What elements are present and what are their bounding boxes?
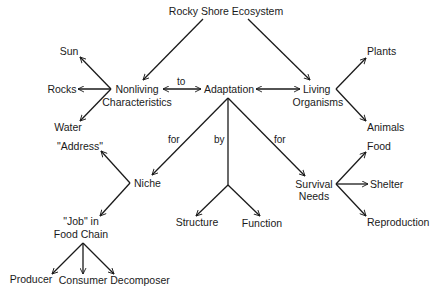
nodes: Rocky Shore Ecosystem Nonliving Characte…: [10, 5, 430, 286]
edge-label-for-survival: for: [274, 134, 286, 145]
node-survival-line2: Needs: [299, 190, 329, 202]
node-function: Function: [242, 217, 282, 229]
node-survival-line1: Survival: [295, 178, 332, 190]
node-root: Rocky Shore Ecosystem: [169, 5, 284, 17]
edge-job-decomposer: [83, 243, 114, 274]
node-living-line2: Organisms: [293, 96, 344, 108]
node-adaptation: Adaptation: [204, 83, 254, 95]
edge-nonliving-sun: [80, 57, 111, 89]
edge-label-to: to: [177, 76, 186, 87]
node-address: "Address": [57, 140, 103, 152]
edge-niche-job: [100, 183, 130, 216]
node-water: Water: [54, 121, 82, 133]
node-food: Food: [367, 140, 391, 152]
node-nonliving-line1: Nonliving: [115, 83, 158, 95]
edge-root-living: [248, 19, 310, 80]
node-producer: Producer: [10, 273, 53, 285]
node-shelter: Shelter: [370, 178, 404, 190]
node-living-line1: Living: [303, 83, 331, 95]
node-sun: Sun: [60, 45, 79, 57]
edge-niche-address: [101, 151, 130, 183]
node-reproduction: Reproduction: [367, 216, 430, 228]
node-job-line1: "Job" in: [63, 215, 99, 227]
edge-survival-food: [336, 152, 366, 184]
node-niche: Niche: [134, 177, 161, 189]
edge-root-nonliving: [143, 19, 203, 80]
node-animals: Animals: [367, 121, 404, 133]
node-plants: Plants: [367, 45, 396, 57]
concept-map: to for by for Rocky Shore Ecosystem Nonl…: [0, 0, 436, 297]
node-consumer: Consumer: [59, 274, 108, 286]
edge-adaptation-survival: [228, 98, 305, 176]
edge-label-by: by: [214, 134, 225, 145]
node-decomposer: Decomposer: [110, 274, 170, 286]
edge-by-function: [228, 185, 260, 216]
node-nonliving-line2: Characteristics: [102, 96, 171, 108]
edge-label-for-niche: for: [168, 134, 180, 145]
edge-job-producer: [52, 243, 83, 274]
edge-by-structure: [196, 185, 228, 216]
edge-survival-reproduction: [336, 184, 366, 216]
node-job-line2: Food Chain: [54, 228, 108, 240]
node-structure: Structure: [176, 216, 219, 228]
edge-living-plants: [336, 58, 366, 89]
node-rocks: Rocks: [47, 83, 76, 95]
